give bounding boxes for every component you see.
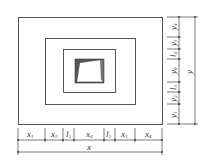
middle-rectangle <box>46 39 136 105</box>
dim-l4: l4 <box>168 51 178 57</box>
dim-x1: x1 <box>26 129 34 139</box>
core-shading <box>76 60 104 83</box>
dim-y0: y0 <box>168 67 178 75</box>
dim-x3: x3 <box>120 129 128 139</box>
dim-y-total: y <box>184 70 194 75</box>
dim-y2: y2 <box>168 95 178 103</box>
dim-l2: l2 <box>106 129 112 139</box>
dim-l3: l3 <box>168 84 178 90</box>
dimension-diagram: x1 x2 l1 x0 l2 x3 x4 x y4 y3 l4 y0 l3 y2… <box>0 0 215 166</box>
dim-l1: l1 <box>66 129 71 139</box>
dim-y3: y3 <box>168 39 178 47</box>
dim-y4: y4 <box>168 23 178 31</box>
dim-x4: x4 <box>144 129 152 139</box>
dim-x-total: x <box>86 142 91 152</box>
inner-rectangle <box>64 50 116 93</box>
outer-rectangle <box>19 18 163 125</box>
dim-y1: y1 <box>168 112 178 120</box>
dim-x0: x0 <box>85 129 93 139</box>
core-shading-right <box>100 60 104 83</box>
dim-x2: x2 <box>50 129 58 139</box>
